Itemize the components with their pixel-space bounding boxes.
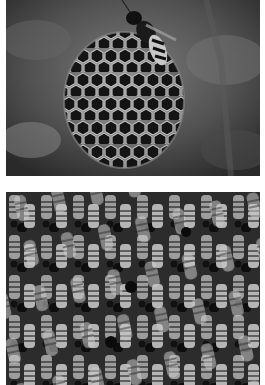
- bee-cluster-illustration: [6, 192, 260, 385]
- bee-cluster-photo: [6, 192, 260, 385]
- wasp-nest-photo: [6, 0, 260, 176]
- wasp-nest-illustration: [6, 0, 260, 176]
